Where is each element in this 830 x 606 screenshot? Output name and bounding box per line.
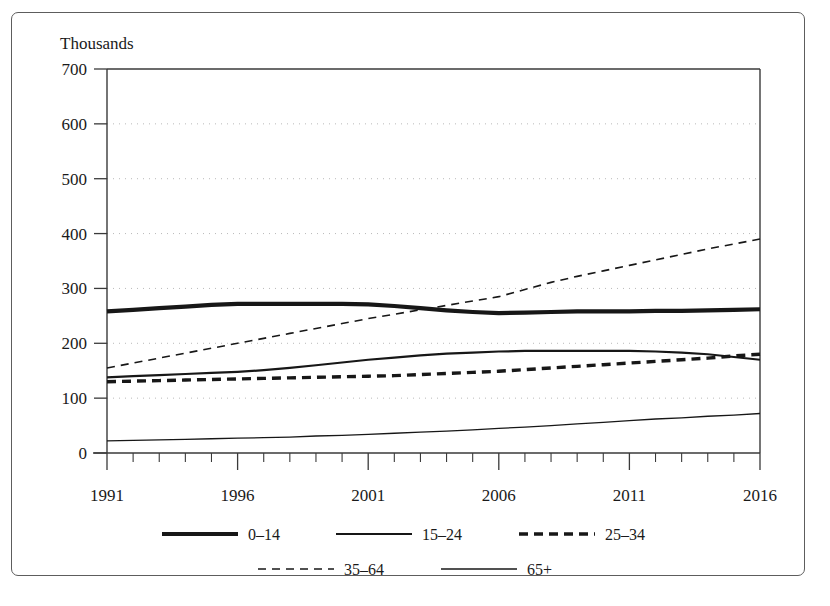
y-axis-tick-labels: 0100200300400500600700 [62, 60, 88, 463]
y-tick-label: 600 [62, 115, 88, 134]
x-tick-label: 2016 [743, 486, 777, 505]
series-line-25-34 [107, 354, 760, 381]
y-tick-label: 200 [62, 334, 88, 353]
x-axis-tick-labels: 199119962001200620112016 [90, 486, 777, 505]
legend-label: 0–14 [248, 526, 280, 543]
line-chart: 0100200300400500600700 19911996200120062… [12, 13, 806, 577]
legend-item: 65+ [441, 561, 552, 577]
y-axis-ticks [94, 69, 107, 453]
series-line-65+ [107, 414, 760, 441]
x-tick-label: 2006 [482, 486, 516, 505]
x-tick-label: 2011 [613, 486, 646, 505]
x-tick-label: 1991 [90, 486, 124, 505]
figure-frame: 0100200300400500600700 19911996200120062… [11, 12, 805, 576]
series-line-0-14 [107, 304, 760, 313]
legend-label: 65+ [527, 561, 552, 577]
y-tick-label: 300 [62, 279, 88, 298]
y-tick-label: 100 [62, 389, 88, 408]
y-tick-label: 0 [79, 444, 88, 463]
series-line-15-24 [107, 351, 760, 377]
chart-legend: 0–1415–2425–3435–6465+ [162, 526, 645, 577]
data-series [107, 239, 760, 441]
y-axis-title: Thousands [60, 34, 134, 53]
grid-lines [107, 124, 760, 398]
y-tick-label: 400 [62, 225, 88, 244]
legend-item: 15–24 [336, 526, 462, 543]
legend-item: 35–64 [258, 561, 384, 577]
legend-label: 25–34 [605, 526, 645, 543]
plot-axes [93, 69, 760, 453]
legend-label: 15–24 [422, 526, 462, 543]
x-axis-ticks [107, 453, 760, 470]
legend-item: 25–34 [519, 526, 645, 543]
y-tick-label: 500 [62, 170, 88, 189]
legend-label: 35–64 [344, 561, 384, 577]
x-tick-label: 1996 [221, 486, 255, 505]
legend-item: 0–14 [162, 526, 280, 543]
x-tick-label: 2001 [351, 486, 385, 505]
y-tick-label: 700 [62, 60, 88, 79]
